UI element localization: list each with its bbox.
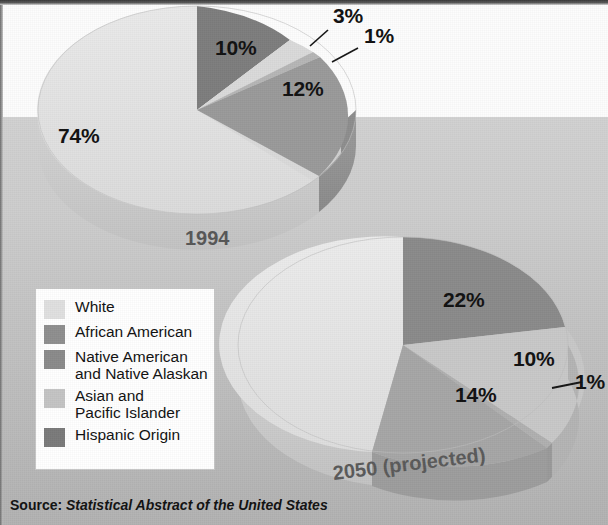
- pie-1994-label-1: 1%: [364, 24, 394, 48]
- legend-label-hispanic-origin: Hispanic Origin: [75, 426, 180, 443]
- legend-swatch-african-american: [44, 325, 65, 344]
- pie-1994-label-3: 3%: [333, 4, 363, 28]
- source-note: Source: Statistical Abstract of the Unit…: [10, 497, 328, 513]
- pie-1994-label-12: 12%: [282, 77, 323, 101]
- legend-swatch-hispanic-origin: [44, 428, 65, 447]
- pie-1994-year-label: 1994: [185, 227, 230, 250]
- pie-2050-label-22: 22%: [443, 288, 484, 312]
- pie-1994-label-74: 74%: [58, 124, 99, 148]
- pie-2050-label-10: 10%: [513, 347, 554, 371]
- legend-label-asian-pacific-line1: Asian and: [75, 387, 144, 404]
- legend-swatch-white: [44, 300, 65, 319]
- legend-item-african-american[interactable]: African American: [44, 323, 208, 344]
- legend-label-native-american-line2: and Native Alaskan: [75, 365, 208, 382]
- legend-swatch-native-american: [44, 350, 65, 369]
- pie-1994-label-10: 10%: [215, 36, 256, 60]
- legend-label-asian-pacific-line2: Pacific Islander: [75, 404, 180, 421]
- legend: White African American Native American a…: [35, 288, 215, 470]
- legend-item-asian-pacific[interactable]: Asian and Pacific Islander: [44, 387, 208, 421]
- legend-label-white: White: [75, 298, 115, 315]
- legend-item-native-american[interactable]: Native American and Native Alaskan: [44, 348, 208, 382]
- pie-2050-depth-native: [547, 443, 552, 482]
- pie-2050-label-14: 14%: [455, 383, 496, 407]
- figure-canvas: 74% 12% 10% 3% 1% 1994 53% 22% 10% 14% 1…: [0, 0, 608, 525]
- legend-label-native-american-line1: Native American: [75, 348, 188, 365]
- pie-1994-leader-1pct: [332, 48, 358, 62]
- legend-swatch-asian-pacific: [44, 389, 65, 408]
- source-prefix: Source:: [10, 497, 62, 513]
- legend-item-hispanic-origin[interactable]: Hispanic Origin: [44, 426, 208, 447]
- pie-2050-label-1: 1%: [575, 370, 605, 394]
- source-title: Statistical Abstract of the United State…: [66, 497, 328, 513]
- pie-2050-slice-white: [219, 236, 403, 452]
- legend-item-white[interactable]: White: [44, 298, 208, 319]
- legend-label-african-american: African American: [75, 323, 192, 340]
